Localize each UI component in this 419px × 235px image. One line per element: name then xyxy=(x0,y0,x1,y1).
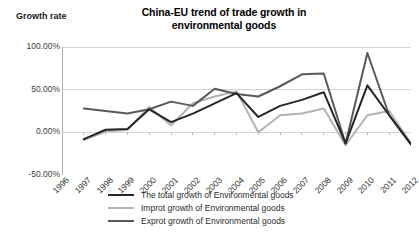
x-tick-label: 2010 xyxy=(350,175,377,202)
legend-item-label: Exprot growth of Environmental goods xyxy=(141,216,285,226)
legend-item[interactable]: Improt growth of Environmental goods xyxy=(108,201,348,214)
legend-item-label: The total growth of Environmental goods xyxy=(141,190,294,200)
y-tick-label: -50.00% xyxy=(4,169,60,179)
legend-item[interactable]: Exprot growth of Environmental goods xyxy=(108,214,348,227)
legend-item[interactable]: The total growth of Environmental goods xyxy=(108,188,348,201)
plot-area xyxy=(62,47,411,175)
legend-item-label: Improt growth of Environmental goods xyxy=(141,203,285,213)
legend-color-swatch xyxy=(108,220,134,222)
x-tick-label: 1997 xyxy=(66,175,93,202)
legend-color-swatch xyxy=(108,207,134,209)
plot-svg xyxy=(62,47,411,175)
x-tick-label: 2011 xyxy=(371,175,398,202)
chart-legend: The total growth of Environmental goodsI… xyxy=(108,188,348,227)
chart-title: China-EU trend of trade growth in enviro… xyxy=(96,6,352,32)
y-tick-label: 100.00% xyxy=(4,41,60,51)
chart-title-line-1: China-EU trend of trade growth in xyxy=(96,6,352,19)
chart-container: China-EU trend of trade growth in enviro… xyxy=(0,0,419,235)
y-tick-label: 0.00% xyxy=(4,126,60,136)
chart-title-line-2: environmental goods xyxy=(96,19,352,32)
x-tick-label: 2012 xyxy=(393,175,419,202)
y-tick-label: 50.00% xyxy=(4,84,60,94)
legend-color-swatch xyxy=(108,194,134,196)
